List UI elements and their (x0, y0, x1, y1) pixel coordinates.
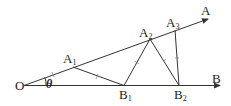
label-A2: A2 (139, 25, 152, 41)
label-A3: A3 (166, 15, 179, 31)
segment-A1B1 (73, 67, 124, 86)
label-B: B (212, 71, 221, 86)
segment-A2B2 (150, 39, 179, 86)
label-A1: A1 (63, 51, 76, 67)
label-A: A (201, 3, 211, 18)
label-theta: θ (46, 77, 53, 91)
label-O: O (15, 78, 24, 93)
tick-A1B1 (96, 74, 98, 79)
ray-OA (24, 19, 208, 86)
label-B2: B2 (174, 87, 187, 103)
geometry-diagram: O θ A B A1 B1 A2 B2 A3 (0, 0, 231, 106)
label-B1: B1 (119, 87, 132, 103)
